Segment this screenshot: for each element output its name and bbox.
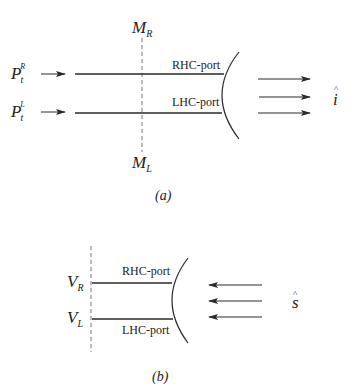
lhc-port-label: LHC-port — [172, 95, 220, 109]
antenna-aperture-arc — [222, 52, 239, 139]
rhc-port-label: RHC-port — [122, 264, 171, 278]
antenna-aperture-arc — [172, 258, 188, 343]
incident-direction-i-hat-label: i — [333, 90, 338, 109]
lhc-port-label: LHC-port — [122, 323, 170, 337]
caption-b: (b) — [152, 369, 169, 385]
antenna-port-diagram: MR ML PtR PtL RHC-port LHC-port ^ — [0, 0, 355, 388]
scatter-direction-s-hat-label: s — [292, 293, 299, 312]
diagram-b: VR VL RHC-port LHC-port ^ s (b) — [67, 246, 299, 385]
voltage-v-r-label: VR — [67, 272, 84, 293]
input-p-t-l-label: PtL — [10, 100, 25, 123]
input-p-t-r-label: PtR — [10, 62, 25, 85]
marker-m-r-label: MR — [131, 18, 152, 39]
diagram-a: MR ML PtR PtL RHC-port LHC-port ^ — [10, 18, 339, 204]
rhc-port-label: RHC-port — [172, 58, 221, 72]
marker-m-l-label: ML — [131, 153, 152, 174]
voltage-v-l-label: VL — [67, 308, 83, 329]
caption-a: (a) — [155, 188, 172, 204]
